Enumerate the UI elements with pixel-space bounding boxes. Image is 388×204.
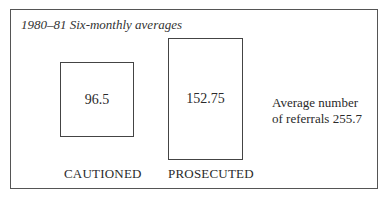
- cautioned-value: 96.5: [85, 92, 110, 108]
- cautioned-box: 96.5: [60, 62, 134, 137]
- note-line-2: of referrals 255.7: [272, 111, 362, 127]
- prosecuted-value: 152.75: [186, 91, 225, 107]
- referrals-note: Average number of referrals 255.7: [272, 95, 362, 127]
- cautioned-label: CAUTIONED: [64, 166, 142, 182]
- prosecuted-label: PROSECUTED: [168, 166, 254, 182]
- note-line-1: Average number: [272, 95, 362, 111]
- prosecuted-box: 152.75: [168, 38, 243, 160]
- figure-title: 1980–81 Six-monthly averages: [21, 17, 182, 33]
